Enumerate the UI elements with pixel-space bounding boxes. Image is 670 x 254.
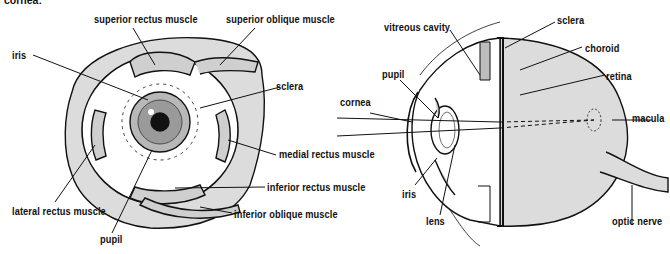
label-iris: iris: [12, 49, 26, 61]
label-superior-oblique-muscle: superior oblique muscle: [226, 13, 335, 25]
label-sclera-section: sclera: [557, 14, 584, 26]
label-pupil: pupil: [100, 233, 123, 245]
label-inferior-oblique-muscle: inferior oblique muscle: [234, 208, 338, 220]
label-choroid: choroid: [585, 42, 619, 54]
label-pupil-section: pupil: [382, 68, 405, 80]
label-retina: retina: [606, 70, 632, 82]
label-vitreous-cavity: vitreous cavity: [384, 21, 450, 33]
label-iris-section: iris: [402, 188, 416, 200]
label-medial-rectus-muscle: medial rectus muscle: [279, 148, 375, 160]
label-macula: macula: [632, 112, 664, 124]
label-lens: lens: [426, 215, 445, 227]
cross-section-eye: [337, 22, 668, 246]
label-cornea: cornea: [340, 96, 371, 108]
label-superior-rectus-muscle: superior rectus muscle: [94, 13, 198, 25]
label-optic-nerve: optic nerve: [612, 215, 662, 227]
front-view-eye: [65, 38, 264, 228]
label-inferior-rectus-muscle: inferior rectus muscle: [267, 181, 365, 193]
label-lateral-rectus-muscle: lateral rectus muscle: [12, 205, 106, 217]
label-sclera: sclera: [276, 80, 303, 92]
